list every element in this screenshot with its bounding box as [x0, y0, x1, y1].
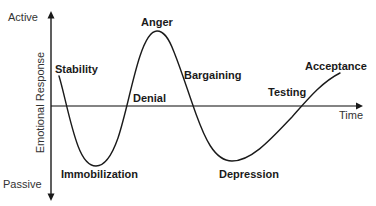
stage-label-bargaining: Bargaining	[184, 70, 241, 81]
diagram-canvas	[0, 0, 376, 206]
stage-label-anger: Anger	[141, 17, 173, 28]
stage-label-acceptance: Acceptance	[305, 61, 367, 72]
change-curve-diagram: Active Passive Emotional Response Time S…	[0, 0, 376, 206]
stage-label-denial: Denial	[133, 93, 166, 104]
stage-label-depression: Depression	[219, 169, 279, 180]
y-axis-bottom-label: Passive	[3, 179, 42, 190]
passive-arrow-down-icon	[48, 194, 55, 202]
change-curve	[59, 31, 340, 166]
active-arrow-up-icon	[48, 11, 55, 19]
y-axis-top-label: Active	[8, 12, 38, 23]
stage-label-stability: Stability	[55, 64, 98, 75]
stage-label-immobilization: Immobilization	[61, 169, 138, 180]
y-axis-label: Emotional Response	[35, 52, 46, 154]
stage-label-testing: Testing	[268, 87, 306, 98]
x-axis-label: Time	[339, 110, 363, 121]
